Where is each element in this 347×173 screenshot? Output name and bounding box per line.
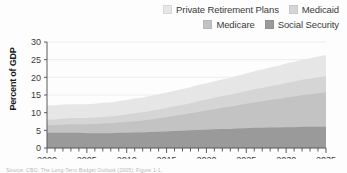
stacked-area-chart: 051015202530 200020052010201520202025203… [0, 34, 347, 159]
legend-swatch-medicaid [289, 5, 298, 14]
x-tick-label: 2010 [117, 155, 137, 159]
legend-label-private-retirement-plans: Private Retirement Plans [176, 4, 279, 15]
y-tick-label: 25 [31, 55, 41, 65]
x-tick-label: 2025 [236, 155, 256, 159]
chart-figure: Private Retirement Plans Medicaid Medica… [0, 0, 347, 173]
y-tick-label: 15 [31, 90, 41, 100]
x-tick-label: 2030 [276, 155, 296, 159]
area-series-group [47, 55, 326, 148]
legend-item-medicare[interactable]: Medicare [203, 19, 254, 30]
legend-row-1: Private Retirement Plans Medicaid [153, 2, 339, 17]
x-tick-label: 2005 [77, 155, 97, 159]
legend-item-medicaid[interactable]: Medicaid [289, 4, 339, 15]
legend-row-2: Medicare Social Security [193, 17, 339, 32]
source-note: Source: CBO, The Long-Term Budget Outloo… [6, 167, 306, 173]
x-axis-ticks: 20002005201020152020202520302035 [37, 148, 336, 159]
legend-label-medicare: Medicare [216, 19, 254, 30]
y-tick-label: 20 [31, 73, 41, 83]
legend-item-social-security[interactable]: Social Security [265, 19, 339, 30]
y-axis-ticks: 051015202530 [31, 37, 47, 153]
y-axis-title: Percent of GDP [8, 44, 18, 114]
legend-swatch-social-security [265, 20, 274, 29]
plot-area: Percent of GDP 051015202530 200020052010… [0, 34, 347, 159]
x-tick-label: 2035 [316, 155, 336, 159]
y-tick-label: 10 [31, 108, 41, 118]
x-tick-label: 2020 [196, 155, 216, 159]
x-tick-label: 2015 [157, 155, 177, 159]
legend-label-medicaid: Medicaid [302, 4, 339, 15]
y-tick-label: 5 [36, 126, 41, 136]
chart-legend: Private Retirement Plans Medicaid Medica… [0, 2, 347, 32]
legend-swatch-medicare [203, 20, 212, 29]
legend-swatch-private-retirement-plans [163, 5, 172, 14]
y-tick-label: 30 [31, 37, 41, 47]
legend-item-private-retirement-plans[interactable]: Private Retirement Plans [163, 4, 279, 15]
x-tick-label: 2000 [37, 155, 57, 159]
legend-label-social-security: Social Security [278, 19, 339, 30]
y-tick-label: 0 [36, 143, 41, 153]
